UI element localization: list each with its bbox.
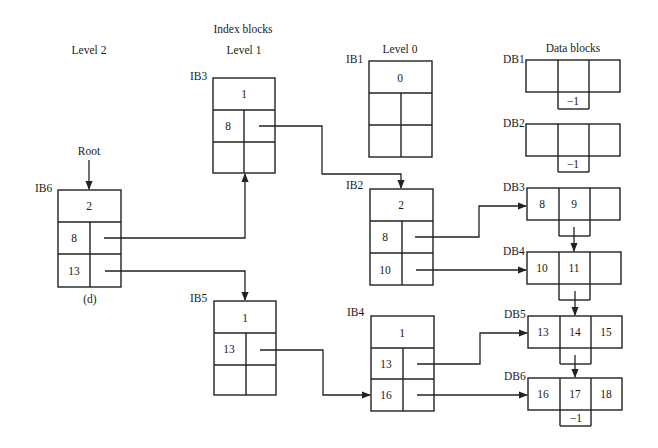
block-label: DB2 <box>503 117 525 129</box>
key-cell: 13 <box>380 358 392 370</box>
data-cell: 11 <box>568 262 579 274</box>
key-cell: 8 <box>225 120 231 132</box>
pointer-arrow-ib6-to-ib5 <box>105 271 245 300</box>
pointer-arrow-ib6-to-ib3 <box>104 174 245 238</box>
data-cell: 15 <box>600 326 612 338</box>
data-cell: 14 <box>569 326 581 338</box>
index-block-ib2: IB2 2 8 10 <box>346 179 433 285</box>
null-pointer: −1 <box>567 95 579 107</box>
block-header-value: 0 <box>397 72 403 84</box>
key-cell: 13 <box>68 265 80 277</box>
block-header-value: 1 <box>242 312 248 324</box>
block-label: DB5 <box>504 308 526 320</box>
block-label: DB1 <box>503 53 525 65</box>
block-label: IB6 <box>35 182 53 194</box>
data-block-db4: DB4 10 11 <box>503 245 621 300</box>
block-label: IB1 <box>346 53 364 65</box>
btree-diagram: Index blocks Level 2 Level 1 Level 0 Dat… <box>0 0 658 448</box>
data-cell: 16 <box>537 388 549 400</box>
data-cell: 10 <box>536 262 548 274</box>
block-header-value: 2 <box>398 199 404 211</box>
null-pointer: −1 <box>567 158 579 170</box>
level1-heading: Level 1 <box>227 44 262 56</box>
block-header-value: 2 <box>86 200 92 212</box>
data-blocks-heading: Data blocks <box>546 42 601 54</box>
level2-heading: Level 2 <box>72 44 107 56</box>
key-cell: 13 <box>223 343 235 355</box>
data-cell: 13 <box>537 326 549 338</box>
block-label: IB2 <box>346 179 364 191</box>
data-block-db6: DB6 16 17 18 −1 <box>504 370 622 426</box>
block-header-value: 1 <box>399 327 405 339</box>
block-label: DB3 <box>503 181 525 193</box>
key-cell: 8 <box>382 231 388 243</box>
null-pointer: −1 <box>570 412 582 424</box>
block-label: IB5 <box>190 292 208 304</box>
root-label: Root <box>78 145 101 157</box>
key-cell: 16 <box>380 389 392 401</box>
index-blocks-heading: Index blocks <box>213 23 273 35</box>
block-label: DB6 <box>504 370 526 382</box>
index-block-ib5: IB5 1 13 <box>190 292 276 395</box>
data-block-db5: DB5 13 14 15 <box>504 308 622 364</box>
data-cell: 18 <box>600 388 612 400</box>
block-header-value: 1 <box>241 88 247 100</box>
index-block-ib1: IB1 0 <box>346 53 432 157</box>
data-block-db3: DB3 8 9 <box>503 181 620 236</box>
level0-heading: Level 0 <box>383 43 418 55</box>
key-cell: 10 <box>379 264 391 276</box>
data-block-db2: DB2 −1 <box>503 117 620 172</box>
block-label: IB3 <box>190 70 208 82</box>
block-label: DB4 <box>503 245 525 257</box>
key-cell: 8 <box>71 232 77 244</box>
index-block-ib3: IB3 1 8 <box>190 70 275 173</box>
data-cell: 17 <box>569 388 581 400</box>
block-label: IB4 <box>347 306 365 318</box>
data-cell: 8 <box>539 198 545 210</box>
data-block-db1: DB1 −1 <box>503 53 620 109</box>
figure-caption: (d) <box>83 293 97 306</box>
data-cell: 9 <box>571 198 577 210</box>
